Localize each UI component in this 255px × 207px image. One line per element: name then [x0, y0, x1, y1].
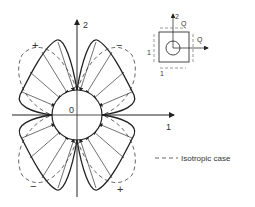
- axis-1-label: 1: [166, 122, 171, 132]
- inset-shear-right-label: Q: [197, 36, 203, 44]
- inset-stress-bottom-label: 1: [160, 70, 164, 77]
- sign-bottom-right: +: [117, 183, 123, 195]
- inset-shear-top-label: Q: [181, 20, 187, 28]
- axis-2-label: 2: [83, 20, 88, 30]
- sign-top-left: +: [32, 39, 38, 51]
- stress-distribution-diagram: 2 1 0 + − − + 2 Q Q 1 1 Isotropic case: [0, 0, 255, 207]
- legend-text: Isotropic case: [181, 154, 231, 163]
- inset-stress-left-label: 1: [147, 49, 151, 56]
- origin-label: 0: [69, 105, 74, 115]
- legend: Isotropic case: [155, 154, 231, 163]
- inset-axis-2-label: 2: [175, 13, 179, 20]
- sign-bottom-left: −: [30, 180, 36, 192]
- sign-top-right: −: [116, 39, 122, 51]
- inset-element-diagram: 2 Q Q 1 1: [147, 13, 208, 77]
